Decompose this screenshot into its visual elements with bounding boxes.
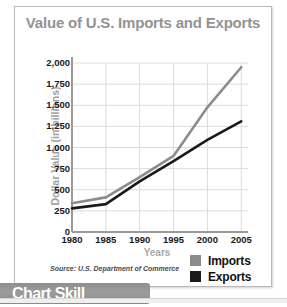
series-line-exports — [72, 121, 241, 208]
legend-item: Exports — [190, 269, 251, 284]
y-axis-tick-label: 250 — [26, 205, 70, 216]
chart-figure: Value of U.S. Imports and Exports Dollar… — [0, 0, 287, 307]
y-axis-tick-label: 1,500 — [26, 99, 70, 110]
legend-item: Imports — [190, 253, 251, 268]
y-axis-tick-labels: 02505007501,0001,2501,5001,7502,000 — [26, 0, 70, 307]
legend-swatch-icon — [190, 255, 201, 266]
y-axis-tick-label: 1,750 — [26, 78, 70, 89]
legend-label: Exports — [208, 270, 251, 284]
chart-legend: ImportsExports — [190, 253, 251, 285]
y-axis-tick-label: 1,000 — [26, 142, 70, 153]
source-note: Source: U.S. Department of Commerce — [50, 265, 179, 272]
legend-label: Imports — [208, 254, 251, 268]
y-axis-tick-label: 750 — [26, 163, 70, 174]
banner-underline — [0, 298, 287, 303]
y-axis-tick-label: 500 — [26, 184, 70, 195]
y-axis-tick-label: 2,000 — [26, 57, 70, 68]
x-axis-tick-label: 2005 — [221, 234, 261, 245]
legend-swatch-icon — [190, 271, 201, 282]
y-axis-tick-label: 1,250 — [26, 120, 70, 131]
